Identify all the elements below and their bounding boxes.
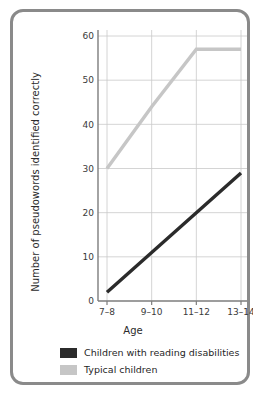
x-axis-title: Age <box>123 325 142 336</box>
line-chart: 01020304050607–89–1011–1213–14 Age Numbe… <box>13 12 253 388</box>
y-tick-label: 10 <box>83 252 95 262</box>
series-line <box>107 173 241 292</box>
y-tick-label: 0 <box>88 296 94 306</box>
chart-legend: Children with reading disabilities Typic… <box>60 345 250 379</box>
y-axis-title: Number of pseudowords identified correct… <box>30 72 41 292</box>
x-tick-label: 9–10 <box>141 307 163 317</box>
legend-item-reading-disabilities: Children with reading disabilities <box>60 345 250 360</box>
chart-plot-area: 01020304050607–89–1011–1213–14 Age Numbe… <box>13 12 253 388</box>
legend-label-typical-children: Typical children <box>84 364 157 375</box>
legend-item-typical-children: Typical children <box>60 362 250 377</box>
y-tick-label: 40 <box>83 120 95 130</box>
legend-swatch-dark <box>60 348 77 358</box>
legend-label-reading-disabilities: Children with reading disabilities <box>84 347 239 358</box>
data-series-lines <box>107 49 241 292</box>
legend-swatch-light <box>60 365 77 375</box>
gridlines <box>98 30 247 301</box>
figure-card: 01020304050607–89–1011–1213–14 Age Numbe… <box>10 9 250 385</box>
tick-labels: 01020304050607–89–1011–1213–14 <box>83 31 253 317</box>
y-tick-label: 50 <box>83 75 95 85</box>
y-tick-label: 20 <box>83 208 95 218</box>
y-tick-label: 30 <box>83 164 95 174</box>
x-tick-label: 13–14 <box>227 307 253 317</box>
axes <box>98 30 247 305</box>
series-line <box>107 49 241 168</box>
x-tick-label: 7–8 <box>99 307 115 317</box>
y-tick-label: 60 <box>83 31 95 41</box>
x-tick-label: 11–12 <box>183 307 210 317</box>
